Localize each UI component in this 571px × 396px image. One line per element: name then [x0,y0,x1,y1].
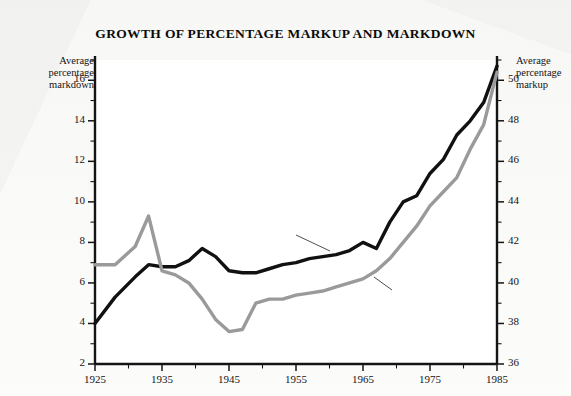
y-tick-label-right: 40 [508,275,538,287]
x-tick-label: 1925 [73,373,117,385]
y-tick-label-left: 14 [55,113,85,125]
y-tick-label-left: 2 [55,356,85,368]
x-tick-label: 1965 [341,373,385,385]
x-tick-label: 1985 [475,373,519,385]
y-tick-label-right: 46 [508,153,538,165]
plot-area-background [95,60,497,364]
x-tick-label: 1955 [274,373,318,385]
y-tick-label-right: 50 [508,72,538,84]
y-tick-label-left: 12 [55,153,85,165]
y-tick-label-right: 42 [508,234,538,246]
y-tick-label-right: 36 [508,356,538,368]
y-tick-label-right: 48 [508,113,538,125]
y-tick-label-left: 16 [55,72,85,84]
x-tick-label: 1945 [207,373,251,385]
x-tick-label: 1975 [408,373,452,385]
x-tick-label: 1935 [140,373,184,385]
y-tick-label-right: 38 [508,315,538,327]
y-tick-label-left: 8 [55,234,85,246]
y-tick-label-left: 4 [55,315,85,327]
y-tick-label-right: 44 [508,194,538,206]
chart-figure: GROWTH OF PERCENTAGE MARKUP AND MARKDOWN… [0,0,571,396]
y-tick-label-left: 10 [55,194,85,206]
plot-svg [0,0,571,396]
y-tick-label-left: 6 [55,275,85,287]
